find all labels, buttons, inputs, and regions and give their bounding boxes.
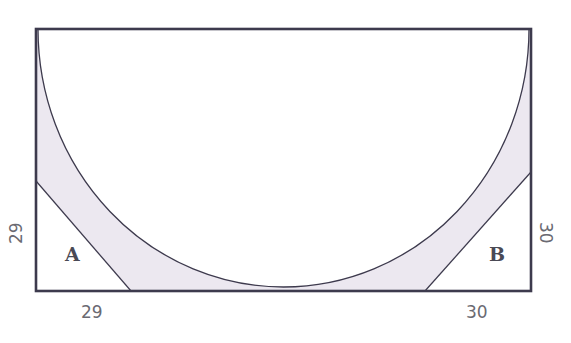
shaded-region: [36, 29, 531, 291]
label-region-a: A: [64, 243, 80, 265]
dim-a-vertical: 29: [6, 222, 26, 244]
geometry-diagram: A B 29 30 29 30: [0, 0, 571, 343]
dim-a-horizontal: 29: [81, 302, 103, 322]
dim-b-vertical: 30: [536, 222, 556, 244]
label-region-b: B: [489, 243, 505, 265]
dim-b-horizontal: 30: [466, 302, 488, 322]
